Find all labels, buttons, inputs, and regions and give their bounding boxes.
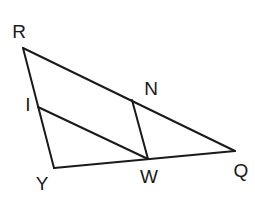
label-y: Y <box>36 173 49 194</box>
segment-nw <box>132 100 148 159</box>
label-n: N <box>144 78 158 99</box>
segment-rq <box>23 48 235 151</box>
label-r: R <box>12 21 26 42</box>
label-i: I <box>25 94 30 115</box>
segment-iw <box>38 107 148 159</box>
label-q: Q <box>234 160 249 181</box>
label-w: W <box>140 166 158 187</box>
triangle-diagram: R N I Y W Q <box>0 0 255 198</box>
